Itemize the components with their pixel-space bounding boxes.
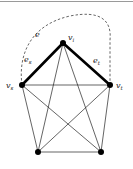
edge-vi-bl [38, 43, 63, 152]
vertices [19, 40, 113, 155]
label-et: et [93, 56, 101, 66]
vertex-bottom-right [98, 149, 104, 155]
label-vi: vi [68, 33, 75, 43]
vertex-vt [107, 82, 113, 88]
graph-diagram: vi vs vt e es et [0, 0, 133, 169]
vertex-bottom-left [35, 149, 41, 155]
vertex-vs [19, 82, 25, 88]
edge-vt-bl [38, 85, 110, 152]
label-vt: vt [116, 81, 124, 91]
edge-vt-br [101, 85, 110, 152]
label-e: e [35, 30, 40, 39]
label-es: es [24, 55, 32, 65]
label-vs: vs [6, 81, 14, 91]
vertex-vi [60, 40, 66, 46]
edge-vs-bl [22, 85, 38, 152]
